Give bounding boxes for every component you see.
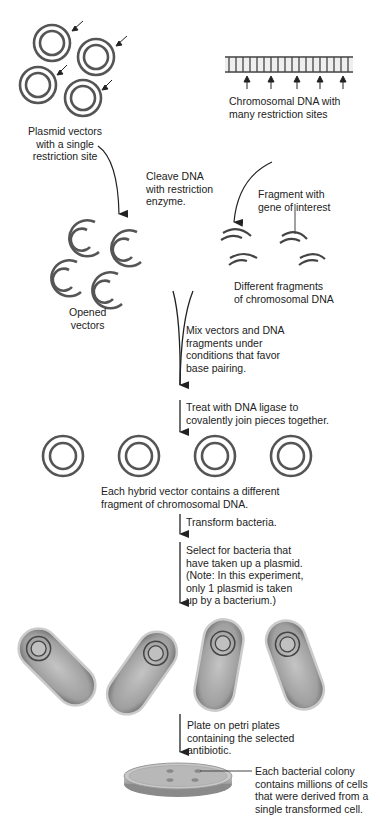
- label-select: Select for bacteria that have taken up a…: [186, 544, 303, 607]
- plasmid-icon: [78, 39, 114, 75]
- opened-vectors-group: [51, 220, 141, 308]
- bacteria-group: [10, 615, 329, 722]
- bacterium-icon: [191, 616, 246, 714]
- plasmid-icon: [65, 80, 101, 116]
- label-opened-vectors: Opened vectors: [69, 306, 106, 331]
- restriction-site-arrows: [57, 21, 127, 90]
- fragment-icon: [221, 229, 251, 240]
- label-different-fragments: Different fragments of chromosomal DNA: [234, 280, 334, 305]
- label-colony: Each bacterial colony contains millions …: [255, 765, 368, 815]
- plasmid-vectors-group: [20, 25, 114, 116]
- bacterium-icon: [260, 615, 329, 715]
- bacterium-icon: [99, 624, 185, 722]
- fragment-icon: [229, 254, 257, 265]
- bacterium-icon: [10, 620, 103, 713]
- hybrid-vector-icon: [119, 436, 159, 476]
- chromosomal-dna-icon: [225, 56, 353, 73]
- hybrid-vector-icon: [271, 436, 311, 476]
- opened-vector-icon: [69, 220, 99, 256]
- plasmid-icon: [34, 25, 70, 61]
- label-cleave: Cleave DNA with restriction enzyme.: [146, 170, 213, 208]
- label-transform: Transform bacteria.: [186, 516, 277, 529]
- fragment-icon: [299, 254, 325, 265]
- label-mix: Mix vectors and DNA fragments under cond…: [186, 324, 285, 374]
- opened-vector-icon: [51, 260, 81, 296]
- label-chromosomal-dna: Chromosomal DNA with many restriction si…: [229, 95, 340, 120]
- petri-dish-icon: [124, 763, 232, 797]
- label-ligase: Treat with DNA ligase to covalently join…: [186, 401, 329, 426]
- fragment-icon: [280, 232, 307, 243]
- label-plate: Plate on petri plates containing the sel…: [187, 719, 294, 757]
- mix-arrow-left: [173, 291, 180, 385]
- label-plasmid-vectors: Plasmid vectors with a single restrictio…: [28, 125, 102, 163]
- hybrid-vector-icon: [195, 436, 235, 476]
- dna-restriction-site-arrows: [244, 76, 346, 89]
- opened-vector-icon: [111, 230, 141, 266]
- label-fragment-gene: Fragment with gene of interest: [258, 188, 330, 213]
- plasmid-icon: [20, 67, 56, 103]
- hybrid-vector-icon: [43, 436, 83, 476]
- label-hybrid: Each hybrid vector contains a different …: [101, 485, 279, 510]
- hybrid-vectors-group: [43, 436, 311, 476]
- dna-fragments-group: [221, 229, 325, 265]
- opened-vector-icon: [92, 272, 122, 308]
